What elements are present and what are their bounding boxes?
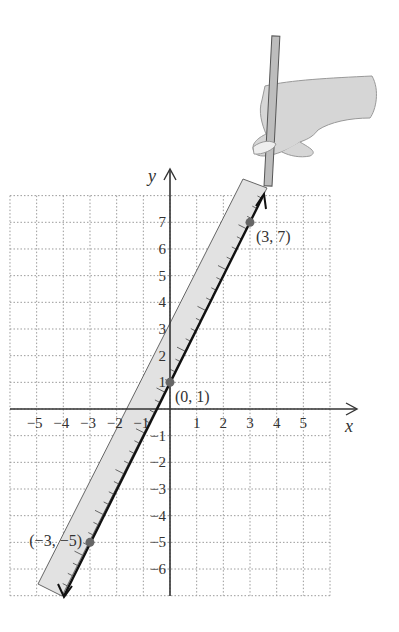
y-tick-label: 3 — [159, 321, 167, 337]
y-tick-label: −4 — [150, 508, 166, 524]
x-tick-label: 4 — [273, 415, 281, 431]
data-point — [85, 538, 94, 547]
y-tick-label: −2 — [150, 454, 166, 470]
y-tick-label: 2 — [159, 348, 167, 364]
x-tick-label: 3 — [246, 415, 254, 431]
x-tick-label: 2 — [220, 415, 228, 431]
x-axis-label: x — [344, 416, 353, 436]
y-axis-label: y — [146, 166, 156, 186]
x-tick-label: −3 — [80, 415, 96, 431]
x-tick-label: −2 — [107, 415, 123, 431]
y-tick-label: 6 — [159, 241, 167, 257]
data-point — [246, 218, 255, 227]
graph-figure: y x −5−4−3−2−112345 7654321−1−2−3−4−5−6 … — [0, 0, 399, 632]
point-label: (−3, −5) — [29, 532, 82, 550]
y-tick-label: 7 — [159, 214, 167, 230]
x-tick-label: 1 — [193, 415, 201, 431]
x-tick-labels: −5−4−3−2−112345 — [27, 415, 307, 431]
x-tick-label: 5 — [300, 415, 308, 431]
data-point — [166, 378, 175, 387]
hand-pencil-illustration — [253, 36, 377, 186]
point-label: (0, 1) — [175, 388, 210, 406]
y-tick-label: 5 — [159, 268, 167, 284]
y-tick-label: −5 — [150, 534, 166, 550]
y-tick-label: −3 — [150, 481, 166, 497]
y-tick-label: −1 — [150, 428, 166, 444]
y-tick-label: 1 — [159, 374, 167, 390]
x-tick-label: −4 — [53, 415, 69, 431]
point-label: (3, 7) — [256, 228, 291, 246]
y-tick-label: 4 — [159, 294, 167, 310]
y-tick-label: −6 — [150, 561, 166, 577]
x-tick-label: −5 — [27, 415, 43, 431]
